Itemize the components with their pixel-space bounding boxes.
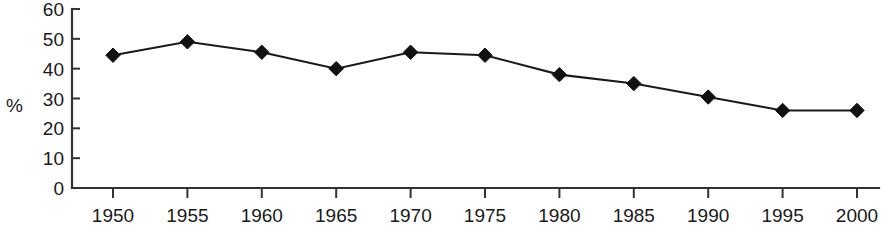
data-point-marker (329, 61, 343, 75)
x-tick-label: 1965 (315, 205, 357, 226)
line-chart-figure: % 0102030405060 195019551960196519701975… (0, 0, 892, 231)
data-point-marker (627, 76, 641, 90)
data-point-marker (106, 48, 120, 62)
data-point-marker (403, 45, 417, 59)
y-tick-label: 20 (43, 118, 64, 139)
x-tick-label: 1970 (389, 205, 431, 226)
y-tick-label: 50 (43, 29, 64, 50)
chart-canvas: % 0102030405060 195019551960196519701975… (0, 0, 892, 231)
data-point-marker (552, 67, 566, 81)
x-tick-label: 1975 (464, 205, 506, 226)
y-tick-label: 0 (53, 178, 64, 199)
y-tick-label: 40 (43, 59, 64, 80)
y-tick-label: 10 (43, 148, 64, 169)
x-tick-label: 1980 (538, 205, 580, 226)
data-point-marker (255, 45, 269, 59)
y-axis-tick-labels: 0102030405060 (43, 0, 64, 199)
x-axis-ticks (113, 188, 857, 198)
x-tick-label: 1960 (241, 205, 283, 226)
data-point-marker (701, 90, 715, 104)
x-tick-label: 1955 (166, 205, 208, 226)
y-tick-label: 30 (43, 89, 64, 110)
x-tick-label: 1985 (613, 205, 655, 226)
data-point-marker (850, 103, 864, 117)
y-axis-ticks (72, 9, 80, 188)
x-tick-label: 1995 (761, 205, 803, 226)
data-point-marker (478, 48, 492, 62)
data-point-marker (180, 35, 194, 49)
data-point-marker (775, 103, 789, 117)
x-axis-tick-labels: 1950195519601965197019751980198519901995… (92, 205, 878, 226)
x-tick-label: 1990 (687, 205, 729, 226)
x-tick-label: 2000 (836, 205, 878, 226)
y-axis-label: % (6, 95, 23, 116)
x-tick-label: 1950 (92, 205, 134, 226)
y-tick-label: 60 (43, 0, 64, 20)
